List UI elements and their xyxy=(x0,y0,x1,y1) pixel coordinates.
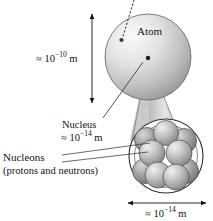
atom-scale-diagram: Atom ≈ 10−10 m Nucleus ≈ 10−14 m Nucleon… xyxy=(0,0,213,221)
nucleus-diameter-approx: ≈ 10 xyxy=(61,132,80,143)
diagram-canvas xyxy=(0,0,213,221)
nucleons-label: Nucleons xyxy=(3,152,45,164)
nucleus-bottom-approx: ≈ 10 xyxy=(145,208,164,219)
nucleon-cluster xyxy=(129,119,203,193)
atom-diameter-exponent: −10 xyxy=(55,50,67,59)
nucleus-diameter-label: ≈ 10−14 m xyxy=(61,130,103,143)
electron-dot xyxy=(119,38,123,42)
nucleus-bottom-exponent: −14 xyxy=(164,205,176,214)
nucleus-bottom-unit: m xyxy=(176,208,187,219)
nucleons-sub-label: (protons and neutrons) xyxy=(3,165,98,176)
atom-diameter-unit: m xyxy=(67,53,78,64)
atom-diameter-label: ≈ 10−10 m xyxy=(36,51,78,64)
nucleus-diameter-exponent: −14 xyxy=(80,129,92,138)
atom-diameter-approx: ≈ 10 xyxy=(36,53,55,64)
nucleus-dot xyxy=(146,56,150,60)
nucleus-diameter-bottom-label: ≈ 10−14 m xyxy=(145,206,187,219)
nucleus-diameter-unit: m xyxy=(92,132,103,143)
atom-label: Atom xyxy=(137,26,162,38)
